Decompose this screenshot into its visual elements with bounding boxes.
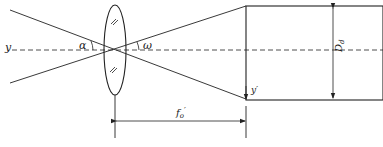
focal-prime: ′	[184, 105, 186, 114]
omega-arc	[137, 42, 139, 50]
lens-hatch-icon	[110, 19, 118, 73]
alpha-arc	[91, 41, 93, 50]
image-sensor-box	[246, 6, 383, 100]
label-image-height: y′	[251, 86, 258, 95]
optical-diagram	[0, 0, 383, 147]
label-aperture: Dd	[334, 39, 346, 52]
aperture-letter: D	[333, 44, 344, 52]
label-y: y	[5, 42, 11, 53]
ray-upper-left	[10, 10, 246, 99]
aperture-subscript: d	[338, 39, 346, 43]
label-alpha: α	[79, 40, 86, 51]
label-focal-length: fo′	[176, 106, 186, 120]
label-omega: ω	[143, 40, 152, 51]
ray-lower-left	[10, 6, 246, 83]
